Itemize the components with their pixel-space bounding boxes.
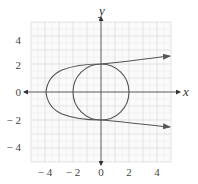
x-tick-label: 2 xyxy=(126,166,132,178)
y-tick-label: 0 xyxy=(16,86,22,98)
graph: x y − 4 − 2 0 2 4 4 2 0 − 2 − 4 xyxy=(0,0,198,184)
x-axis-label: x xyxy=(182,84,189,99)
y-tick-label: 2 xyxy=(16,59,22,71)
y-tick-labels: 4 2 0 − 2 − 4 xyxy=(7,34,22,153)
y-tick-label: − 2 xyxy=(7,114,21,126)
x-tick-label: − 2 xyxy=(66,166,80,178)
y-tick-label: 4 xyxy=(16,34,22,46)
y-tick-label: − 4 xyxy=(7,141,22,153)
x-tick-labels: − 4 − 2 0 2 4 xyxy=(38,166,160,178)
x-tick-label: − 4 xyxy=(38,166,53,178)
x-tick-label: 4 xyxy=(154,166,160,178)
x-tick-label: 0 xyxy=(98,166,104,178)
y-axis-label: y xyxy=(97,3,105,18)
